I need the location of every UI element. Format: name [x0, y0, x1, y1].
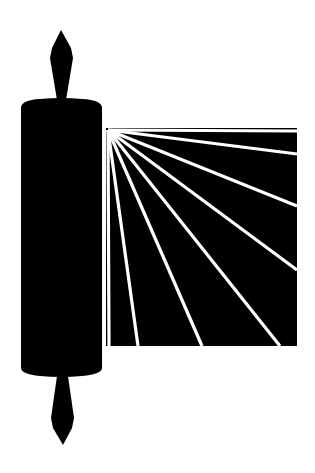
top-handle-icon	[50, 30, 73, 100]
bottom-handle-icon	[51, 376, 74, 445]
ray-line	[108, 130, 297, 131]
scroll-illustration	[0, 0, 315, 473]
roller-icon	[21, 98, 102, 377]
ray-line	[108, 130, 109, 346]
